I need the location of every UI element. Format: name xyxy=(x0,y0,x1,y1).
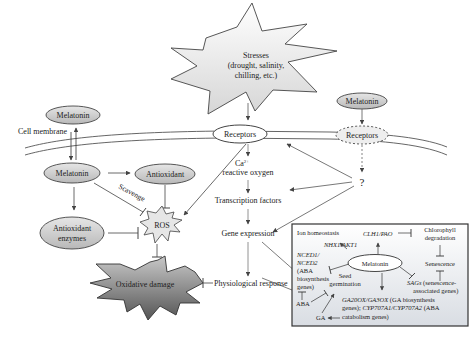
nced-label-3: (ABA xyxy=(297,267,313,275)
antioxidant-label: Antioxidant xyxy=(146,170,185,179)
scavenge-label: Scavenge xyxy=(117,182,147,204)
melatonin-internal-label: Melatonin xyxy=(56,169,89,178)
gene-expression-label: Gene expression xyxy=(221,229,274,238)
chlorophyll-label-1: Chlorophyll xyxy=(424,226,456,233)
chlorophyll-label-2: degradation xyxy=(425,234,456,241)
senescence-label: Senescence xyxy=(425,260,455,267)
melatonin-external-left-label: Melatonin xyxy=(57,111,90,120)
nced-label-5: genes) xyxy=(297,283,314,291)
nced-label-4: biosynthesis xyxy=(297,275,330,282)
ga-label: GA xyxy=(316,314,326,321)
transcription-factors-label: Transcription factors xyxy=(215,196,282,205)
cyp-label: genes); CYP707A1/CYP707A2 (ABA xyxy=(342,304,440,312)
receptors-dashed-label: Receptors xyxy=(346,131,378,140)
receptors-label: Receptors xyxy=(224,130,256,139)
physiological-response-label: Physiological response xyxy=(214,279,288,288)
seed-label-1: Seed xyxy=(339,272,352,279)
cell-membrane-label: Cell membrane xyxy=(18,127,68,136)
ca-label: Ca2+ xyxy=(235,159,249,168)
question-to-tf-arrow xyxy=(290,182,352,190)
nced-label-2: NCED2 xyxy=(296,259,318,266)
inhibit-bar xyxy=(140,208,146,216)
oxidative-damage-label: Oxidative damage xyxy=(116,280,175,289)
gene-to-inset-connector xyxy=(262,242,296,272)
ga20ox-label: GA20OX/GA3OX (GA biosynthesis xyxy=(342,296,435,304)
question-to-receptor-arrow xyxy=(287,144,352,178)
catabolism-label: catabolism genes) xyxy=(342,313,389,321)
aba-label: ABA xyxy=(296,300,310,307)
antioxidant-enzymes-node xyxy=(40,217,104,249)
reactive-oxygen-label: reactive oxygen xyxy=(223,168,274,177)
inset-melatonin-label: Melatonin xyxy=(362,260,389,267)
sags-label-2: associated genes) xyxy=(413,287,458,295)
ion-homeostasis-label: Ion homeostasis xyxy=(297,229,340,236)
sags-label-1: SAGs (senescence- xyxy=(407,279,456,287)
unknown-mechanism-mark: ? xyxy=(360,176,365,188)
ros-label: ROS xyxy=(154,221,170,230)
nced-label-1: NCED1/ xyxy=(296,251,321,258)
clh1-pao-label: CLH1/PAO xyxy=(363,230,393,237)
stresses-detail-1: (drought, salinity, xyxy=(228,61,285,70)
antioxidant-enzymes-label-2: enzymes xyxy=(58,234,86,243)
melatonin-external-right-label: Melatonin xyxy=(346,97,379,106)
melatonin-stress-pathway-diagram: Cell membrane Stresses (drought, salinit… xyxy=(0,0,474,339)
antioxidant-enzymes-label-1: Antioxidant xyxy=(53,224,92,233)
stresses-title: Stresses xyxy=(243,51,269,60)
nhx1-akt1-label: NHX1/AKT1 xyxy=(323,241,357,248)
stresses-detail-2: chilling, etc.) xyxy=(235,71,278,80)
seed-label-2: germination xyxy=(329,280,361,287)
